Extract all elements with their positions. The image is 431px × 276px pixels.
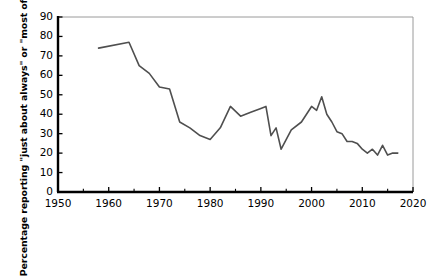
- y-axis-tick-label: 70: [22, 49, 53, 61]
- y-axis-tick-label: 0: [22, 185, 53, 197]
- y-axis-tick-label: 50: [22, 88, 53, 100]
- y-axis-tick-label: 10: [22, 166, 53, 178]
- x-axis-tick-label: 2000: [290, 197, 334, 209]
- y-axis-tick-label: 90: [22, 10, 53, 22]
- data-line-trust-in-government: [99, 42, 398, 155]
- y-axis-tick-label: 80: [22, 29, 53, 41]
- x-axis-tick-label: 2020: [391, 197, 431, 209]
- y-axis-tick-label: 30: [22, 127, 53, 139]
- x-axis-tick-label: 1980: [188, 197, 232, 209]
- x-axis-tick-label: 1960: [87, 197, 131, 209]
- y-axis-tick-label: 60: [22, 68, 53, 80]
- x-axis-tick-label: 1990: [239, 197, 283, 209]
- y-axis-tick-label: 20: [22, 146, 53, 158]
- y-axis-tick-label: 40: [22, 107, 53, 119]
- x-axis-tick-label: 1970: [137, 197, 181, 209]
- x-axis-tick-label: 2010: [340, 197, 384, 209]
- x-axis-tick-label: 1950: [36, 197, 80, 209]
